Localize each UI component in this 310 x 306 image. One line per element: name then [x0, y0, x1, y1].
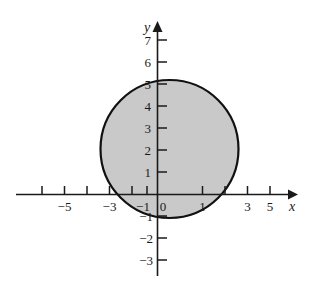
coordinate-plane-plot: −5 −3 −1 0 1 3 5 7 6 5 4 3 2 1 −1 −2 −3 … [0, 0, 310, 306]
x-axis-name-label: x [288, 199, 296, 214]
y-axis-name-label: y [142, 20, 151, 35]
shaded-disk-region [101, 80, 239, 218]
x-label-1: 1 [199, 199, 206, 214]
y-label--1: −1 [139, 209, 153, 224]
y-label-5: 5 [145, 77, 152, 92]
y-label--3: −3 [139, 253, 153, 268]
x-label-5: 5 [267, 199, 274, 214]
x-label-0: 0 [160, 199, 167, 214]
figure-canvas: −5 −3 −1 0 1 3 5 7 6 5 4 3 2 1 −1 −2 −3 … [0, 0, 310, 306]
x-label--3: −3 [103, 199, 117, 214]
y-axis-ticks [158, 40, 168, 260]
y-label-1: 1 [145, 165, 152, 180]
y-label-7: 7 [145, 33, 152, 48]
y-label-6: 6 [145, 55, 152, 70]
y-label-4: 4 [145, 99, 152, 114]
y-label--2: −2 [139, 231, 153, 246]
y-label-2: 2 [145, 143, 152, 158]
x-axis-tick-labels: −5 −3 −1 0 1 3 5 [58, 199, 274, 214]
x-label--5: −5 [58, 199, 72, 214]
x-label-3: 3 [244, 199, 251, 214]
y-label-3: 3 [145, 121, 152, 136]
